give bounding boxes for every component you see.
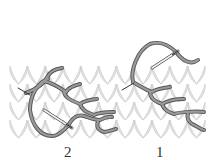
knit-fabric: [10, 66, 205, 138]
needle-step-1: [152, 51, 178, 68]
step-1-label: 1: [156, 145, 164, 160]
step-2-label: 2: [64, 145, 72, 160]
stitch-illustration: [0, 0, 220, 166]
